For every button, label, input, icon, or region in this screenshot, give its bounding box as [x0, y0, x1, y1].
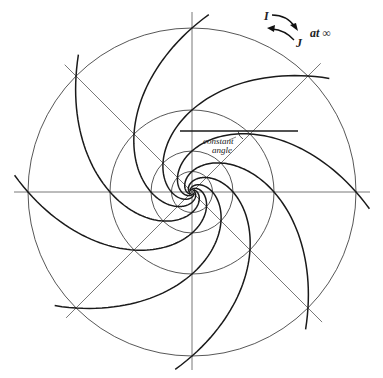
arrow-j-icon	[267, 25, 294, 40]
at-infinity-label: at ∞	[310, 26, 331, 40]
constant-angle-arc-icon	[238, 131, 243, 139]
log-spiral-diagram: constant angle I J at ∞	[0, 0, 383, 378]
circular-point-i-label: I	[263, 9, 270, 23]
angle-label: angle	[212, 145, 232, 155]
radial-guide-lines	[14, 12, 370, 370]
arrow-i-icon	[272, 15, 298, 31]
circular-point-j-label: J	[295, 36, 303, 50]
